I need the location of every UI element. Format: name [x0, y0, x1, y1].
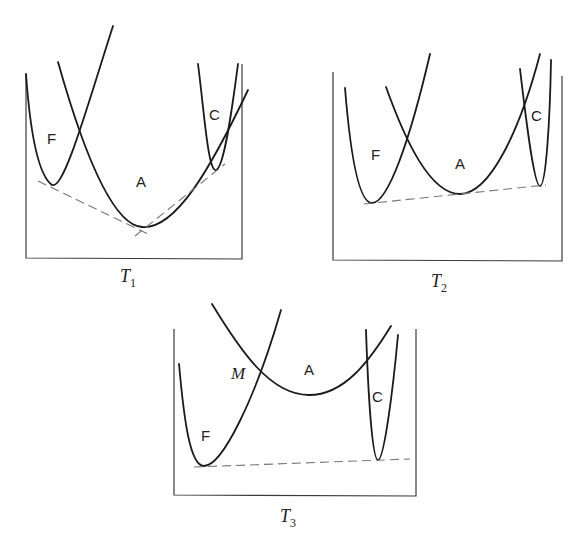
panel-t1-label-a: A [136, 173, 146, 190]
panel-t3-temperature-label: T3 [280, 506, 296, 530]
panel-t3-label-a: A [304, 361, 314, 378]
panel-t3-label-c: C [372, 388, 383, 405]
panel-t1: F A C T1 [26, 26, 248, 290]
panel-t3-label-m: M [230, 364, 246, 383]
panel-t3-axes [174, 329, 416, 496]
panel-t2-label-a: A [455, 155, 465, 172]
panel-t1-curve-a [58, 62, 248, 227]
panel-t1-curve-f [26, 26, 113, 185]
panel-t2-curve-f [345, 54, 430, 203]
panel-t2: F A C T2 [333, 54, 562, 295]
panel-t3: M F A C T3 [174, 304, 416, 530]
free-energy-diagram: F A C T1 F A C T2 M F A C T3 [0, 0, 580, 543]
panel-t1-tangent-ac [135, 164, 225, 236]
panel-t3-label-f: F [201, 427, 210, 444]
panel-t2-axes [333, 72, 562, 261]
panel-t2-label-f: F [371, 146, 380, 163]
panel-t2-label-c: C [531, 107, 542, 124]
panel-t2-tangent-fac [364, 185, 546, 204]
panel-t2-temperature-label: T2 [431, 271, 447, 295]
panel-t2-curve-a [386, 54, 540, 194]
panel-t3-tangent-fc [194, 459, 410, 467]
panel-t1-label-f: F [47, 130, 56, 147]
panel-t1-label-c: C [209, 106, 220, 123]
panel-t1-temperature-label: T1 [120, 266, 136, 290]
panel-t1-axes [26, 64, 242, 259]
panel-t1-tangent-fa [38, 181, 150, 235]
